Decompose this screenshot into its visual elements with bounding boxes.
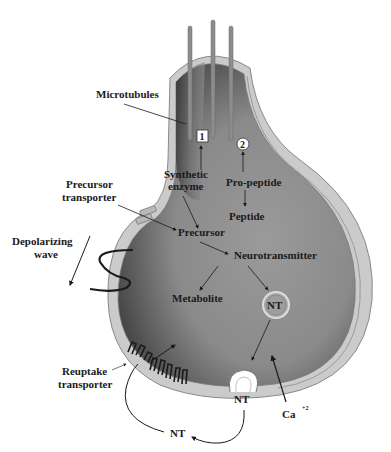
svg-text:NT: NT	[267, 299, 283, 311]
calcium-charge: +2	[302, 405, 308, 411]
step-2-badge: 2	[237, 138, 249, 150]
microtubules-label: Microtubules	[96, 88, 159, 100]
precursor-transporter-label-line2: transporter	[62, 191, 116, 203]
presynaptic-terminal-diagram: Microtubules 1 2 Synthetic enzyme Pro-pe…	[0, 0, 391, 452]
neurotransmitter-label: Neurotransmitter	[234, 249, 317, 261]
released-nt-label: NT	[234, 393, 250, 405]
synthetic-enzyme-label-line1: Synthetic	[164, 168, 208, 180]
precursor-transporter-label-line1: Precursor	[66, 178, 113, 190]
reuptake-transporter-label-line2: transporter	[58, 378, 112, 390]
synthetic-enzyme-label-line2: enzyme	[168, 180, 204, 192]
synaptic-vesicle: NT	[263, 292, 289, 318]
reuptake-transporter-label-line1: Reuptake	[62, 365, 107, 377]
depolarizing-wave-label-line2: wave	[34, 248, 58, 260]
pro-peptide-label: Pro-peptide	[226, 176, 282, 188]
peptide-label: Peptide	[229, 210, 265, 222]
metabolite-label: Metabolite	[172, 292, 223, 304]
svg-text:1: 1	[200, 131, 205, 142]
depolarizing-wave-label-line1: Depolarizing	[12, 235, 73, 247]
reuptake-pointer	[112, 364, 126, 370]
precursor-label: Precursor	[178, 226, 225, 238]
cytoplasm	[118, 62, 360, 388]
released-nt-arrow	[192, 410, 244, 443]
calcium-label: Ca	[282, 408, 296, 420]
step-1-badge: 1	[197, 130, 208, 142]
depolarizing-wave-arrow	[70, 236, 90, 285]
extracellular-nt-label: NT	[170, 427, 186, 439]
svg-text:2: 2	[240, 139, 245, 150]
